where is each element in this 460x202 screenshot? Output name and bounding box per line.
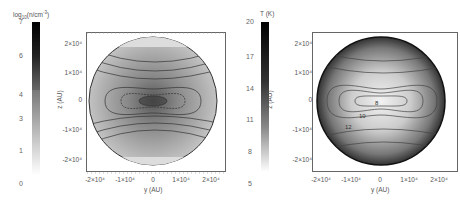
density-x-tick: 2×10⁴ [196,176,226,183]
temperature-x-tick: 1×10⁴ [394,176,424,183]
temperature-plot-frame: 8 10 12 [312,32,458,172]
density-x-tick: 0 [138,176,168,183]
density-cb-tick: 4 [14,91,28,98]
density-x-tick: 1×10⁴ [166,176,196,183]
temperature-colorbar-title: T (K) [260,10,274,17]
temperature-x-tick: 2×10⁴ [424,176,454,183]
contour-label: 12 [345,124,352,130]
density-y-tick: 1×10⁴ [52,69,82,76]
density-y-tick: -1×10⁴ [52,126,82,133]
density-y-tick: 2×10⁴ [52,40,82,47]
density-y-tick: 0 [52,96,82,103]
density-cb-tick: 1 [14,147,28,154]
temperature-x-axis-label: y (AU) [371,186,389,193]
temperature-cb-tick: 14 [243,85,257,92]
temperature-contour-map: 8 10 12 [313,33,459,173]
temperature-cb-tick: 20 [243,18,257,25]
density-x-tick: -2×10⁴ [80,176,110,183]
density-cb-tick: 7 [14,18,28,25]
temperature-y-axis-label: z (AU) [266,90,273,108]
temperature-y-tick: 0 [282,96,312,103]
temperature-y-tick: 2×10⁴ [282,40,312,47]
temperature-y-tick: -2×10⁴ [282,156,312,163]
density-panel: log10(n/cm-3) 7 6 4 3 1 0 z (AU) 2×10⁴ 1… [0,0,230,202]
temperature-cb-tick: 11 [243,116,257,123]
density-plot-frame [86,32,226,172]
temperature-cb-tick: 5 [243,180,257,187]
density-cb-tick: 3 [14,115,28,122]
temperature-cb-tick: 8 [243,148,257,155]
temperature-x-tick: -2×10⁴ [306,176,336,183]
density-x-axis-label: y (AU) [144,186,162,193]
temperature-x-tick: 0 [365,176,395,183]
density-x-tick: -1×10⁴ [110,176,140,183]
density-colorbar [32,22,40,90]
contour-label: 10 [359,113,366,119]
temperature-cb-tick: 17 [243,53,257,60]
temperature-panel: T (K) 20 17 14 11 8 5 z (AU) 2×10⁴ 1×10⁴… [240,0,460,202]
density-colorbar-lower [32,90,40,175]
temperature-y-tick: 1×10⁴ [282,69,312,76]
density-contour-map [87,33,227,173]
density-y-tick: -2×10⁴ [52,156,82,163]
temperature-y-tick: -1×10⁴ [282,126,312,133]
temperature-x-tick: -1×10⁴ [336,176,366,183]
density-cb-tick: 0 [14,180,28,187]
density-cb-tick: 6 [14,52,28,59]
